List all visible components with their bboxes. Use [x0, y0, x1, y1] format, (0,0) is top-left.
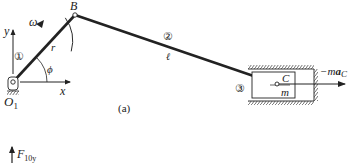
- rod-number: ②: [163, 30, 173, 42]
- force-f10y-label: F10y: [16, 147, 36, 163]
- angle-label: ϕ: [47, 63, 53, 75]
- joint-b-icon: [73, 13, 77, 17]
- angle-arc: [37, 58, 47, 82]
- connecting-rod: [75, 15, 277, 84]
- figure-caption: (a): [118, 102, 131, 115]
- joint-c-icon: [275, 82, 279, 86]
- crank-link: [13, 15, 75, 82]
- pivot-label: O1: [4, 94, 18, 111]
- inertia-force-label: −maC: [320, 65, 348, 79]
- y-axis-label: y: [3, 24, 10, 38]
- omega-label: ω: [29, 15, 37, 29]
- crank-number: ①: [14, 50, 24, 62]
- rod-length-label: ℓ: [166, 51, 170, 62]
- pivot-support-icon: [7, 77, 19, 95]
- point-c-label: C: [282, 72, 290, 84]
- mass-label: m: [281, 86, 289, 98]
- x-axis-label: x: [59, 84, 66, 98]
- crank-length-label: r: [51, 41, 56, 53]
- slider-crank-diagram: y x ϕ ω ① r ② ℓ B O1 C m ③ −maC (a): [0, 0, 355, 165]
- point-b-label: B: [70, 0, 78, 13]
- slider-number: ③: [235, 82, 245, 94]
